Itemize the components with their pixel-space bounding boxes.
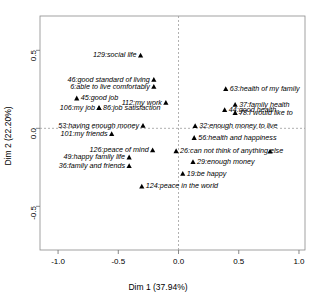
- x-axis-title: Dim 1 (37.94%): [0, 282, 316, 292]
- data-point-marker: [127, 155, 132, 160]
- data-point-label: 19:be happy: [187, 170, 227, 177]
- data-point-marker: [174, 148, 179, 153]
- data-point-marker: [223, 86, 228, 91]
- data-point-label: 45:good job: [81, 95, 119, 102]
- y-axis-tick-label: 0.5: [29, 50, 38, 61]
- data-point-marker: [139, 184, 144, 189]
- x-axis-tick-label: 1.0: [293, 257, 304, 266]
- data-point-label: 29:enough money: [197, 158, 255, 165]
- data-point-marker: [222, 107, 227, 112]
- data-point-label: 36:family and friends: [59, 162, 125, 169]
- data-point-marker: [180, 171, 185, 176]
- data-point-marker: [109, 131, 114, 136]
- data-point-label: 6:able to live comfortably: [70, 83, 150, 90]
- data-point-marker: [74, 96, 79, 101]
- mca-factor-map-plot: Dim 1 (37.94%) Dim 2 (22.20%) -1.0-0.50.…: [0, 0, 316, 294]
- data-point-label: 49:happy family life: [64, 154, 126, 161]
- data-point-label: 124:peace in the world: [146, 183, 218, 190]
- data-point-marker: [151, 77, 156, 82]
- data-point-marker: [140, 123, 145, 128]
- data-point-marker: [163, 100, 168, 105]
- data-point-label: 26:can not think of anything else: [180, 147, 283, 154]
- data-point-label: 32:enough money to live: [199, 122, 277, 129]
- y-axis-title: Dim 2 (22.20%): [3, 91, 13, 181]
- data-point-label: 53:having enough money: [58, 122, 139, 129]
- y-axis-tick-label: -0.5: [29, 206, 38, 220]
- data-point-marker: [151, 84, 156, 89]
- data-point-label: 56:health and happiness: [198, 134, 276, 141]
- data-point-label: 129:social life: [93, 52, 137, 59]
- x-axis-tick-label: -1.0: [51, 257, 65, 266]
- data-point-label: 106:my job: [60, 104, 95, 111]
- x-axis-tick-label: -0.5: [111, 257, 125, 266]
- data-point-label: 63:health of my family: [230, 85, 300, 92]
- data-point-marker: [190, 159, 195, 164]
- data-point-marker: [96, 105, 101, 110]
- data-point-marker: [193, 123, 198, 128]
- data-point-marker: [192, 135, 197, 140]
- data-point-marker: [127, 163, 132, 168]
- data-point-label: 101:my friends: [61, 130, 108, 137]
- data-point-label: 86:job satisfaction: [103, 104, 161, 111]
- data-point-marker: [150, 148, 155, 153]
- x-axis-tick-label: 0.5: [233, 257, 244, 266]
- data-point-marker: [138, 53, 143, 58]
- y-axis-tick-label: 0.0: [29, 128, 38, 139]
- data-point-label: 78:I would like to: [239, 109, 293, 116]
- x-axis-tick-label: 0.0: [173, 257, 184, 266]
